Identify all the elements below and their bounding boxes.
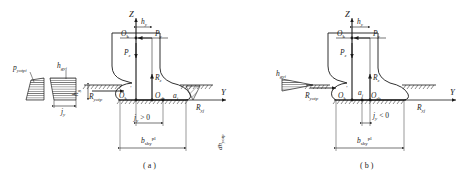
axis-z-label-b: Z bbox=[345, 9, 350, 19]
label-p-yotpi: pyotpi bbox=[12, 63, 27, 73]
label-dh-yotp-a: dhyotp bbox=[216, 134, 225, 150]
label-ok-b: Ok bbox=[337, 29, 345, 39]
label-r-yj-a: Ryj bbox=[195, 103, 205, 113]
point-osh-a bbox=[151, 99, 154, 102]
label-ok-prime-tick-a: ′ bbox=[130, 85, 132, 91]
wheel-outline-a bbox=[112, 33, 191, 100]
dim-bshy-a bbox=[120, 100, 186, 151]
label-jy-condition-a: jy > 0 bbox=[133, 113, 150, 123]
caption-a: ( a ) bbox=[143, 161, 156, 170]
label-ok-prime-a: Ok bbox=[119, 91, 127, 101]
label-p-z-b: Pz bbox=[339, 48, 347, 58]
axis-y-label-a: Y bbox=[221, 87, 227, 97]
label-r-yotp-b: Ryotp bbox=[304, 91, 319, 101]
ground-hatch-a-left bbox=[83, 85, 122, 89]
point-ok-a bbox=[135, 37, 138, 40]
label-h-gyi-b: hgyi bbox=[276, 69, 286, 79]
label-j-y-plot: jy bbox=[60, 107, 66, 117]
label-r-z-a: Rz bbox=[154, 73, 162, 83]
point-ok-b bbox=[351, 37, 354, 40]
label-p-y-b: Py bbox=[372, 29, 381, 39]
figure-svg: pyotpi hgyi jy bbox=[0, 0, 461, 182]
ground-hatch-a-right bbox=[180, 85, 213, 100]
label-h-y-a: hy bbox=[141, 17, 148, 27]
label-h-y-b: hy bbox=[357, 17, 364, 27]
stress-plot-a: pyotpi hgyi jy bbox=[12, 61, 76, 117]
label-r-yj-b: Ryj bbox=[416, 103, 426, 113]
label-jy-condition-b: jy < 0 bbox=[372, 111, 389, 121]
wheel-outline-b bbox=[328, 33, 409, 100]
axis-y-label-b: Y bbox=[450, 87, 456, 97]
label-osh-b: Osh bbox=[371, 91, 381, 101]
label-aj-b: aj bbox=[358, 88, 364, 98]
point-ok-prime-b bbox=[351, 99, 354, 102]
label-bshy-a: bshypl bbox=[141, 136, 156, 146]
label-p-y-a: Py bbox=[154, 29, 163, 39]
label-r-yotp-a: Ryotp bbox=[88, 92, 103, 102]
label-bshy-b: bshypl bbox=[357, 136, 372, 146]
label-ok-prime-b: Ok bbox=[338, 91, 346, 101]
construction-lines-a bbox=[136, 22, 152, 100]
label-r-z-b: Rz bbox=[372, 73, 380, 83]
panel-a: pyotpi hgyi jy bbox=[12, 9, 227, 170]
caption-b: ( b ) bbox=[360, 161, 374, 170]
label-p-z-a: Pz bbox=[123, 48, 131, 58]
label-ok-prime-tick-b: ′ bbox=[346, 85, 348, 91]
ground-hatch-b-right bbox=[402, 85, 436, 89]
axis-z-label-a: Z bbox=[129, 9, 134, 19]
figure-root: pyotpi hgyi jy bbox=[0, 0, 461, 182]
panel-b: hgyi bbox=[276, 9, 456, 170]
label-h-gyi-a: hgyi bbox=[57, 61, 67, 71]
dim-jy-b bbox=[362, 100, 372, 126]
label-osh-a: Osh bbox=[155, 91, 165, 101]
label-ok-a: Ok bbox=[121, 29, 129, 39]
label-aj-a: aj bbox=[173, 91, 179, 101]
